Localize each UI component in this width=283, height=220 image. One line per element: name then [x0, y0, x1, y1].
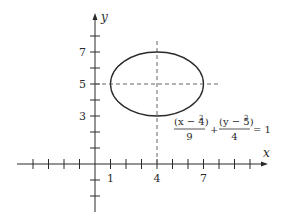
y-tick-label-7: 7	[79, 46, 86, 59]
y-axis	[90, 13, 100, 212]
y-axis-label: y	[100, 10, 108, 24]
ellipse-diagram: y x 1 4 7 7 5 3 (x − 4) 2 9 + (y − 5) 2 …	[0, 0, 283, 220]
x-axis	[17, 159, 268, 169]
y-tick-label-5: 5	[79, 78, 86, 91]
term1-exponent: 2	[199, 114, 203, 122]
y-axis-arrow-icon	[93, 13, 98, 20]
plus-sign: +	[210, 124, 218, 135]
center-guides	[95, 41, 221, 164]
y-tick-label-3: 3	[79, 110, 86, 123]
x-tick-label-1: 1	[107, 172, 114, 185]
term2-exponent: 2	[244, 114, 248, 122]
equals-one: = 1	[253, 124, 271, 135]
x-axis-label: x	[263, 146, 270, 160]
term1-denominator: 9	[186, 131, 192, 142]
x-tick-label-7: 7	[200, 172, 207, 185]
x-axis-arrow-icon	[261, 162, 268, 167]
x-tick-label-4: 4	[154, 172, 161, 185]
ellipse-equation: (x − 4) 2 9 + (y − 5) 2 4 = 1	[174, 114, 271, 142]
term2-denominator: 4	[231, 131, 237, 142]
